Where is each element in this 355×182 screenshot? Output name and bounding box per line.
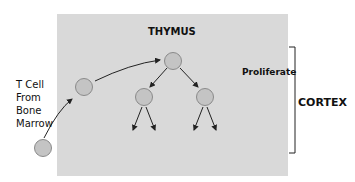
cell-entry — [76, 79, 93, 96]
thymus-title: THYMUS — [148, 25, 196, 38]
cortex-label: CORTEX — [298, 96, 347, 109]
cell-right — [197, 89, 214, 106]
cortex-bracket — [289, 47, 295, 153]
thymus-diagram: THYMUS T Cell From Bone Marrow Prolifera… — [0, 0, 355, 182]
proliferate-label: Proliferate — [242, 66, 296, 79]
cell-root — [165, 53, 182, 70]
cell-left — [136, 89, 153, 106]
source-label: T Cell From Bone Marrow — [16, 78, 53, 130]
thymus-box — [57, 14, 288, 176]
cell-marrow — [35, 140, 52, 157]
